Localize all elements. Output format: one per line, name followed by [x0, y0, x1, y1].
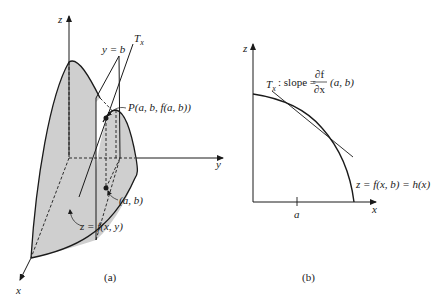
point-p: [104, 116, 109, 121]
y-axis-label-a: y: [215, 158, 221, 170]
slope-annotation: Tx : slope = ∂f ∂x (a, b): [266, 68, 354, 95]
slope-text: : slope =: [278, 76, 316, 88]
curve-label: z = f(x, b) = h(x): [355, 178, 430, 191]
plane-label: y = b: [101, 43, 126, 55]
tangent-label-a: Tx: [134, 32, 144, 47]
z-axis-label-b: z: [242, 42, 248, 54]
z-axis-label-a: z: [57, 13, 63, 25]
slope-args: (a, b): [330, 76, 354, 89]
point-ab: [104, 186, 109, 191]
curve-h: [253, 94, 354, 202]
x-axis: [20, 258, 31, 280]
tangent-line-b: [272, 91, 353, 157]
frac-denominator: ∂x: [314, 83, 325, 95]
frac-numerator: ∂f: [315, 68, 324, 80]
caption-b: (b): [302, 271, 315, 284]
tick-a-label: a: [294, 208, 300, 220]
tangent-label-b: Tx: [266, 78, 276, 93]
figure-b: z x a Tx : slope = ∂f ∂x (a, b) z = f(x,…: [242, 42, 430, 284]
x-axis-label-a: x: [15, 284, 21, 296]
point-p-label: P(a, b, f(a, b)): [127, 101, 191, 114]
x-axis-label-b: x: [371, 203, 377, 215]
figure-a: z y x y = b Tx P(a, b, f(a, b)) (a, b) z…: [15, 13, 223, 296]
point-ab-label: (a, b): [119, 194, 143, 207]
caption-a: (a): [104, 271, 117, 284]
surface-label: z = f(x, y): [79, 220, 123, 233]
partial-derivative-diagram: z y x y = b Tx P(a, b, f(a, b)) (a, b) z…: [0, 0, 437, 300]
